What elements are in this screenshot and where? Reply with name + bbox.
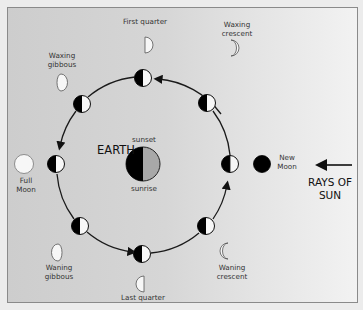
waning-gibbous-label-2: gibbous — [45, 272, 74, 281]
waxing-gibbous-icon — [57, 74, 68, 91]
waxing-crescent-label-2: crescent — [222, 29, 253, 38]
waxing-gibbous-label-2: gibbous — [48, 60, 77, 69]
sun-rays-arrow-icon — [315, 159, 352, 171]
orbit-arrow-right — [213, 185, 227, 219]
orbit-arrow-left — [60, 111, 76, 146]
orbit-moon-waxing-crescent — [199, 95, 216, 112]
orbit-moon-last-quarter — [134, 246, 151, 263]
first-quarter-label: First quarter — [123, 17, 167, 26]
first-quarter-icon — [145, 37, 153, 53]
waxing-crescent-label-1: Waxing — [224, 20, 250, 29]
earth-sunrise-label: sunrise — [131, 184, 158, 193]
orbit-arrow-bottom — [87, 232, 132, 252]
sun-label-1: RAYS OF — [308, 176, 352, 188]
waxing-gibbous-label-1: Waxing — [49, 51, 75, 60]
waxing-crescent-icon — [231, 40, 239, 56]
moon-phases-diagram: EARTH sunset sunrise First quarter Waxin… — [0, 0, 363, 310]
orbit-moon-new — [222, 156, 239, 173]
waning-crescent-icon — [220, 243, 228, 259]
orbit-moon-waxing-gibbous — [74, 96, 91, 113]
orbit-moon-waning-gibbous — [72, 218, 89, 235]
earth-label: EARTH — [97, 143, 135, 157]
orbit-moon-first-quarter — [135, 70, 152, 87]
new-moon-label-1: New — [279, 153, 295, 162]
earth-sunset-label: sunset — [132, 135, 156, 144]
waning-gibbous-label-1: Waning — [46, 263, 73, 272]
last-quarter-icon — [136, 276, 144, 292]
last-quarter-label: Last quarter — [121, 293, 165, 302]
orbit-moon-waning-crescent — [198, 218, 215, 235]
sun-label-2: SUN — [319, 189, 341, 201]
waning-gibbous-icon — [52, 244, 62, 261]
full-moon-label-2: Moon — [16, 185, 36, 194]
waning-crescent-label-1: Waning — [219, 263, 246, 272]
waning-crescent-label-2: crescent — [217, 272, 248, 281]
full-moon-icon — [15, 155, 34, 174]
orbit-moon-full — [48, 156, 65, 173]
full-moon-label-1: Full — [20, 176, 32, 185]
new-moon-icon — [254, 156, 271, 173]
new-moon-label-2: Moon — [277, 162, 297, 171]
